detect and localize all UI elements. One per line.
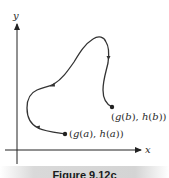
end-point bbox=[110, 105, 114, 109]
parametric-curve bbox=[27, 37, 112, 134]
x-axis: x bbox=[5, 144, 151, 155]
figure-caption: Figure 9.12c bbox=[0, 169, 169, 178]
parametric-curve-figure: y x (g(a), h(a)) (g(b), h(b)) bbox=[0, 0, 169, 178]
start-point bbox=[63, 132, 67, 136]
y-axis-label: y bbox=[12, 10, 19, 21]
start-point-label: (g(a), h(a)) bbox=[69, 128, 124, 139]
direction-arrow-icon bbox=[107, 56, 111, 60]
figure-caption-bar: Figure 9.12c bbox=[0, 166, 169, 178]
x-axis-label: x bbox=[145, 144, 151, 155]
direction-arrow-icon bbox=[50, 83, 55, 87]
y-axis: y bbox=[12, 10, 19, 164]
end-point-label: (g(b), h(b)) bbox=[111, 111, 167, 122]
